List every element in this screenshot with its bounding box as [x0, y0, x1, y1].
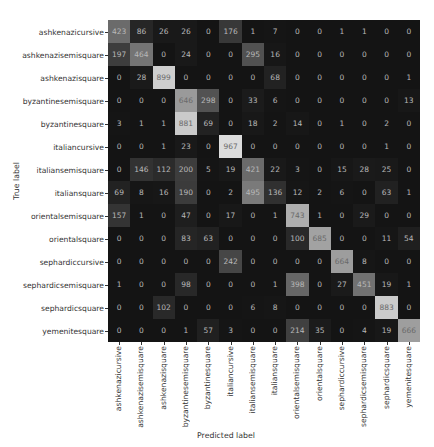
matrix-cell: 57 [197, 319, 219, 342]
matrix-cell: 0 [375, 250, 397, 273]
y-tick-label: orientalsemisquare [31, 211, 104, 220]
matrix-cell: 0 [197, 43, 219, 66]
matrix-cell: 98 [175, 273, 197, 296]
matrix-cell: 16 [264, 43, 286, 66]
matrix-cell: 0 [175, 66, 197, 89]
matrix-cell: 0 [309, 112, 331, 135]
matrix-cell: 19 [219, 158, 241, 181]
matrix-cell: 0 [130, 135, 152, 158]
matrix-cell: 25 [375, 158, 397, 181]
matrix-cell: 22 [264, 158, 286, 181]
x-tick-label: byzantinesquare [203, 346, 212, 409]
matrix-cell: 0 [242, 66, 264, 89]
matrix-cell: 0 [130, 89, 152, 112]
y-tick [105, 55, 108, 56]
matrix-cell: 0 [353, 181, 375, 204]
matrix-cell: 1 [353, 20, 375, 43]
matrix-cell: 0 [130, 319, 152, 342]
y-tick [105, 101, 108, 102]
y-tick [105, 78, 108, 79]
matrix-cell: 295 [242, 43, 264, 66]
x-tick-label: sephardicsemisquare [359, 346, 368, 427]
matrix-cell: 0 [197, 181, 219, 204]
matrix-cell: 0 [264, 319, 286, 342]
matrix-cell: 0 [331, 66, 353, 89]
matrix-cell: 4 [353, 319, 375, 342]
matrix-cell: 2 [309, 181, 331, 204]
matrix-cell: 899 [153, 66, 175, 89]
matrix-cell: 136 [264, 181, 286, 204]
matrix-cell: 1 [398, 66, 420, 89]
x-tick-label: sephardiccursive [337, 346, 346, 410]
matrix-cell: 0 [197, 66, 219, 89]
x-tick [186, 342, 187, 345]
x-tick-label: ashkenazisemisquare [136, 346, 145, 428]
y-tick-label: italiansemisquare [37, 165, 104, 174]
matrix-cell: 33 [242, 89, 264, 112]
matrix-cell: 0 [331, 319, 353, 342]
x-tick [409, 342, 410, 345]
matrix-cell: 23 [175, 135, 197, 158]
matrix-cell: 0 [353, 227, 375, 250]
y-tick-label: ashkenazisemisquare [22, 50, 104, 59]
matrix-cell: 197 [108, 43, 130, 66]
matrix-cell: 1 [331, 20, 353, 43]
matrix-cell: 0 [398, 296, 420, 319]
x-tick-label: sephardicsquare [382, 346, 391, 409]
matrix-cell: 743 [286, 204, 308, 227]
matrix-cell: 0 [309, 296, 331, 319]
matrix-cell: 112 [153, 158, 175, 181]
matrix-cell: 0 [197, 20, 219, 43]
matrix-cell: 421 [242, 158, 264, 181]
matrix-cell: 0 [353, 296, 375, 319]
matrix-cell: 0 [398, 135, 420, 158]
x-tick-label: italiancursive [226, 346, 235, 397]
matrix-cell: 18 [242, 112, 264, 135]
matrix-cell: 0 [309, 158, 331, 181]
matrix-cell: 0 [219, 43, 241, 66]
matrix-cell: 0 [353, 112, 375, 135]
matrix-cell: 495 [242, 181, 264, 204]
matrix-cell: 0 [353, 89, 375, 112]
matrix-cell: 26 [153, 20, 175, 43]
matrix-cell: 8 [130, 181, 152, 204]
matrix-cell: 0 [108, 296, 130, 319]
matrix-cell: 1 [153, 135, 175, 158]
x-tick [364, 342, 365, 345]
x-tick [275, 342, 276, 345]
matrix-cell: 0 [286, 43, 308, 66]
matrix-cell: 0 [331, 135, 353, 158]
matrix-cell: 0 [197, 250, 219, 273]
matrix-cell: 102 [153, 296, 175, 319]
matrix-cell: 0 [153, 250, 175, 273]
y-tick-label: byzantinesquare [41, 119, 104, 128]
x-tick [141, 342, 142, 345]
x-tick [164, 342, 165, 345]
matrix-cell: 0 [331, 296, 353, 319]
confusion-matrix-heatmap: 4238626260176170011001974640240029516000… [108, 20, 420, 342]
matrix-cell: 0 [375, 43, 397, 66]
y-tick-label: orientalsquare [49, 234, 104, 243]
matrix-cell: 0 [242, 319, 264, 342]
matrix-cell: 1 [175, 319, 197, 342]
matrix-cell: 0 [175, 250, 197, 273]
matrix-cell: 0 [108, 227, 130, 250]
matrix-cell: 464 [130, 43, 152, 66]
x-tick [253, 342, 254, 345]
matrix-cell: 0 [331, 204, 353, 227]
matrix-cell: 190 [175, 181, 197, 204]
y-tick [105, 262, 108, 263]
matrix-cell: 0 [242, 227, 264, 250]
matrix-cell: 3 [286, 158, 308, 181]
x-tick-label: italiansquare [270, 346, 279, 395]
y-tick [105, 331, 108, 332]
matrix-cell: 69 [197, 112, 219, 135]
matrix-cell: 16 [153, 181, 175, 204]
matrix-cell: 0 [242, 250, 264, 273]
y-tick-label: italiancursive [53, 142, 104, 151]
matrix-cell: 0 [286, 250, 308, 273]
matrix-cell: 967 [219, 135, 241, 158]
matrix-cell: 0 [153, 204, 175, 227]
y-tick-label: italiansquare [55, 188, 104, 197]
matrix-cell: 1 [398, 181, 420, 204]
